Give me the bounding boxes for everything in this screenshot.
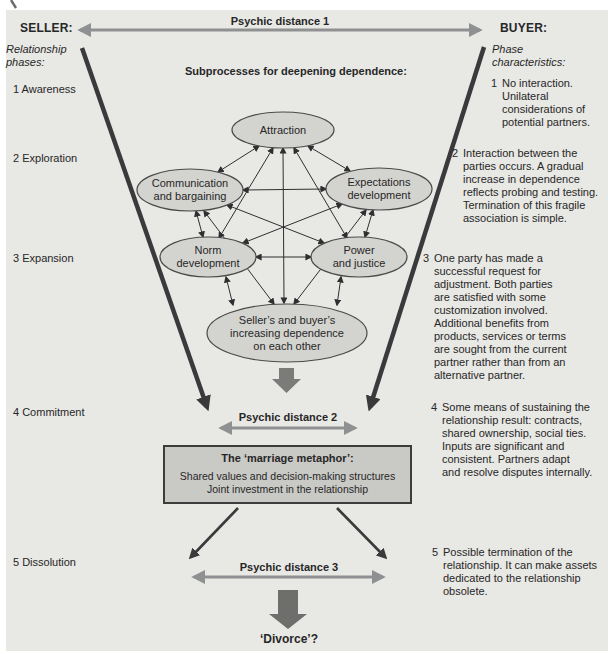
buyer-label: BUYER: <box>500 22 547 35</box>
increasing-dependence-label: Seller’s and buyer’s increasing dependen… <box>230 314 344 353</box>
power-justice-label: Power and justice <box>333 244 386 270</box>
subprocesses-title: Subprocesses for deepening dependence: <box>185 65 407 78</box>
marriage-metaphor-box: The ‘marriage metaphor’: Shared values a… <box>163 445 412 504</box>
characteristic-3-text: One party has made a successful request … <box>434 252 567 382</box>
characteristic-item-2: 2 Interaction between the parties occurs… <box>452 147 598 225</box>
attraction-label: Attraction <box>260 124 306 137</box>
phase-awareness: 1 Awareness <box>13 83 76 95</box>
characteristic-4-text: Some means of sustaining the relationshi… <box>442 401 592 479</box>
phase-characteristics-title: Phase characteristics: <box>492 43 565 69</box>
cropped-label-artifact <box>11 0 16 8</box>
psychic-distance-3-label: Psychic distance 3 <box>240 561 338 574</box>
psychic-distance-2-label: Psychic distance 2 <box>239 411 337 424</box>
characteristic-1-number: 1 <box>491 77 498 129</box>
characteristic-item-4: 4 Some means of sustaining the relations… <box>431 401 592 479</box>
characteristic-5-number: 5 <box>432 546 439 598</box>
divorce-label: ‘Divorce’? <box>260 633 318 646</box>
psychic-distance-1-label: Psychic distance 1 <box>231 15 329 28</box>
phase-expansion: 3 Expansion <box>13 252 74 264</box>
norm-development-label: Norm development <box>177 244 240 270</box>
expectations-development-label: Expectations development <box>348 176 411 202</box>
characteristic-item-1: 1 No interaction. Unilateral considerati… <box>491 77 590 129</box>
marriage-metaphor-text: Shared values and decision-making struct… <box>165 470 410 496</box>
phase-exploration: 2 Exploration <box>13 152 77 164</box>
phase-commitment: 4 Commitment <box>13 406 85 418</box>
characteristic-5-text: Possible termination of the relationship… <box>443 546 597 598</box>
characteristic-3-number: 3 <box>423 252 430 382</box>
characteristic-2-text: Interaction between the parties occurs. … <box>463 147 598 225</box>
phase-dissolution: 5 Dissolution <box>13 556 76 568</box>
characteristic-item-5: 5 Possible termination of the relationsh… <box>432 546 597 598</box>
marriage-metaphor-title: The ‘marriage metaphor’: <box>165 452 410 464</box>
figure-relationship-phases: SELLER: Psychic distance 1 BUYER: Relati… <box>0 0 608 654</box>
seller-label: SELLER: <box>20 22 73 35</box>
relationship-phases-title: Relationship phases: <box>6 43 67 69</box>
communication-bargaining-label: Communication and bargaining <box>152 177 228 203</box>
characteristic-2-number: 2 <box>452 147 459 225</box>
characteristic-item-3: 3 One party has made a successful reques… <box>423 252 567 382</box>
characteristic-1-text: No interaction. Unilateral consideration… <box>502 77 590 129</box>
characteristic-4-number: 4 <box>431 401 438 479</box>
